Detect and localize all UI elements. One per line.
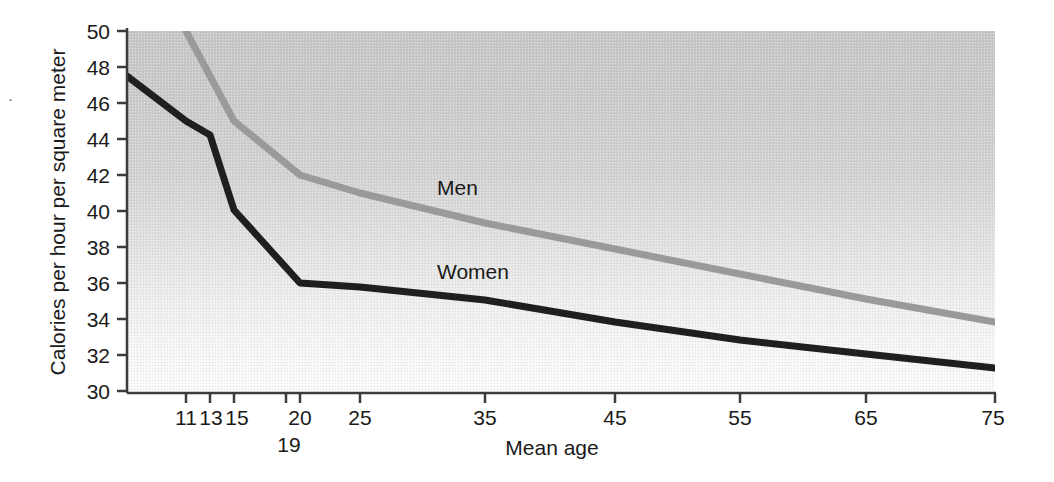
y-tick-label: 42 (87, 164, 110, 187)
x-tick-label: 75 (981, 406, 1004, 429)
chart-page: 50 48 46 44 42 40 38 36 34 32 30 11 13 1… (0, 0, 1054, 482)
x-tick-label: 55 (728, 406, 751, 429)
y-axis-ticks (117, 31, 127, 391)
x-tick-label: 25 (348, 406, 371, 429)
line-chart-figure: 50 48 46 44 42 40 38 36 34 32 30 11 13 1… (0, 0, 1054, 482)
x-axis-title: Mean age (505, 436, 598, 459)
x-tick-label: 13 (199, 406, 222, 429)
y-tick-label: 44 (87, 128, 111, 151)
x-tick-label-19: 19 (277, 433, 300, 456)
y-tick-label: 50 (87, 20, 110, 43)
series-label-men: Men (437, 176, 478, 199)
x-tick-label: 15 (225, 406, 248, 429)
x-tick-label: 45 (603, 406, 626, 429)
y-axis-tick-labels: 50 48 46 44 42 40 38 36 34 32 30 (87, 20, 111, 403)
series-label-women: Women (437, 260, 509, 283)
y-tick-label: 36 (87, 272, 110, 295)
y-axis-title: Calories per hour per square meter (46, 49, 69, 376)
y-tick-label: 34 (87, 308, 111, 331)
chart-svg: 50 48 46 44 42 40 38 36 34 32 30 11 13 1… (0, 0, 1054, 482)
y-tick-label: 30 (87, 380, 110, 403)
y-tick-label: 40 (87, 200, 110, 223)
x-axis-ticks (186, 393, 995, 403)
x-tick-label: 20 (288, 406, 311, 429)
x-tick-label: 35 (473, 406, 496, 429)
page-edge-mark: · (8, 90, 13, 107)
y-tick-label: 38 (87, 236, 110, 259)
y-tick-label: 46 (87, 92, 110, 115)
x-tick-label: 11 (175, 406, 197, 429)
x-tick-label: 65 (854, 406, 877, 429)
y-tick-label: 32 (87, 344, 110, 367)
y-tick-label: 48 (87, 56, 110, 79)
